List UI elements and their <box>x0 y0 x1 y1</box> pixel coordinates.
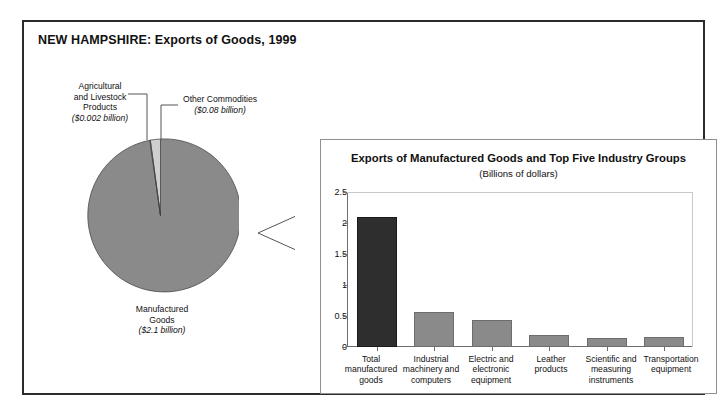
x-tick <box>521 347 579 351</box>
x-axis-labels: Total manufactured goodsIndustrial machi… <box>341 354 701 385</box>
pie-value-agricultural: ($0.002 billion) <box>48 113 152 124</box>
x-tick <box>636 347 694 351</box>
pie-graphic <box>82 137 239 294</box>
x-axis-label: Electric and electronic equipment <box>461 354 521 385</box>
callout-connector <box>256 208 322 258</box>
x-tick <box>578 347 636 351</box>
bar-4 <box>587 338 627 347</box>
pie-label-agricultural-line3: Products <box>48 102 152 113</box>
x-tick <box>348 347 406 351</box>
bar-series <box>348 192 693 347</box>
bar-cell <box>578 192 636 347</box>
y-tick-mark <box>343 347 347 348</box>
pie-label-agricultural-line1: Agricultural <box>48 81 152 92</box>
x-axis-label: Leather products <box>521 354 581 385</box>
y-axis: 00.511.522.5 <box>321 192 347 348</box>
x-axis-label: Scientific and measuring instruments <box>581 354 641 385</box>
pie-slice-manufactured <box>88 139 239 292</box>
figure-frame: NEW HAMPSHIRE: Exports of Goods, 1999 <box>22 20 705 395</box>
pie-label-manufactured-line2: Goods <box>92 315 232 326</box>
bar-cell <box>348 192 406 347</box>
bar-cell <box>463 192 521 347</box>
figure-title: NEW HAMPSHIRE: Exports of Goods, 1999 <box>38 33 297 47</box>
x-tick <box>463 347 521 351</box>
pie-label-agricultural: Agricultural and Livestock Products ($0.… <box>48 81 152 123</box>
bar-0 <box>357 217 397 347</box>
bar-chart-panel: Exports of Manufactured Goods and Top Fi… <box>320 139 717 394</box>
bar-cell <box>636 192 694 347</box>
figure-root: NEW HAMPSHIRE: Exports of Goods, 1999 <box>0 0 725 415</box>
pie-label-other-commodities: Other Commodities ($0.08 billion) <box>160 94 280 115</box>
x-axis-label: Total manufactured goods <box>341 354 401 385</box>
bar-panel-subtitle: (Billions of dollars) <box>321 168 716 179</box>
x-axis-ticks <box>348 347 693 351</box>
bar-2 <box>472 320 512 347</box>
pie-label-other-name: Other Commodities <box>160 94 280 105</box>
pie-label-manufactured: Manufactured Goods ($2.1 billion) <box>92 304 232 336</box>
bar-panel-title: Exports of Manufactured Goods and Top Fi… <box>321 152 716 164</box>
bar-1 <box>414 312 454 347</box>
pie-label-manufactured-line1: Manufactured <box>92 304 232 315</box>
x-axis-label: Transportation equipment <box>641 354 701 385</box>
x-axis-label: Industrial machinery and computers <box>401 354 461 385</box>
pie-value-manufactured: ($2.1 billion) <box>92 325 232 336</box>
bar-cell <box>521 192 579 347</box>
x-tick <box>406 347 464 351</box>
bar-5 <box>644 337 684 347</box>
bar-cell <box>406 192 464 347</box>
bar-3 <box>529 335 569 347</box>
pie-label-agricultural-line2: and Livestock <box>48 92 152 103</box>
pie-value-other: ($0.08 billion) <box>160 105 280 116</box>
